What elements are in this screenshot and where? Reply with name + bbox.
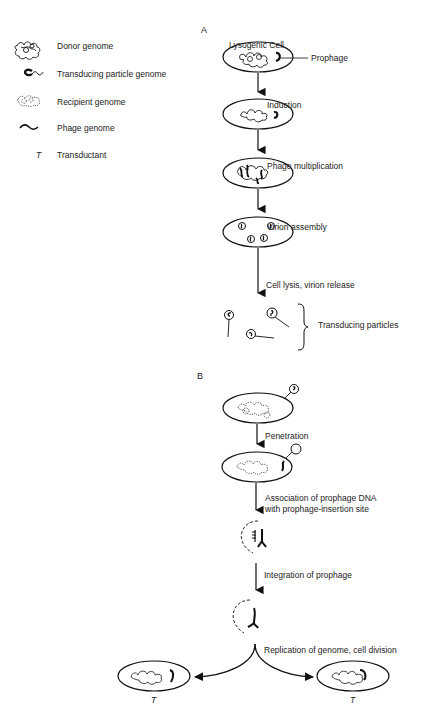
step-integration: Integration of prophage: [264, 570, 352, 580]
step-replication: Replication of genome, cell division: [264, 645, 397, 655]
step-virion-assembly: Virion assembly: [267, 222, 327, 232]
attaching-phage: [285, 385, 299, 399]
legend-donor-genome: Donor genome: [57, 41, 113, 51]
prophage-label: Prophage: [311, 53, 348, 63]
association-site: [241, 521, 266, 553]
integrated-prophage: [233, 600, 258, 633]
step-phage-multiplication: Phage multiplication: [267, 161, 343, 171]
transductant-left-symbol: T: [151, 695, 156, 705]
step-penetration: Penetration: [265, 431, 308, 441]
step-association-line1: Association of prophage DNA: [265, 493, 377, 503]
recipient-cell: [223, 393, 293, 423]
transducing-particles-label: Transducing particles: [318, 320, 398, 330]
transducing-particles: [225, 308, 290, 339]
step-association-line2: with prophage-insertion site: [265, 504, 369, 514]
transductant-cell-left: [118, 661, 190, 691]
step-induction: Induction: [267, 100, 302, 110]
infected-cell: [222, 444, 301, 482]
transductant-right-symbol: T: [350, 695, 355, 705]
legend-phage-genome: Phage genome: [57, 123, 115, 133]
panel-a-title: Lysogenic Cell: [229, 40, 284, 50]
panel-b-label: B: [197, 371, 203, 381]
legend-transductant: Transductant: [57, 150, 106, 160]
recipient-genome-icon: [17, 96, 39, 107]
phage-genome-icon: [20, 125, 38, 129]
brace-icon: [298, 304, 308, 350]
legend-transducing-particle-genome: Transducing particle genome: [57, 69, 166, 79]
prophage-icon: [276, 53, 280, 61]
transducing-particle-genome-icon: [25, 70, 43, 75]
transductant-cell-right: [317, 661, 389, 691]
donor-genome-icon: [15, 42, 40, 59]
legend-transductant-symbol: T: [36, 150, 41, 160]
panel-a-label: A: [201, 25, 207, 35]
step-cell-lysis: Cell lysis, virion release: [266, 280, 355, 290]
legend-recipient-genome: Recipient genome: [57, 97, 126, 107]
